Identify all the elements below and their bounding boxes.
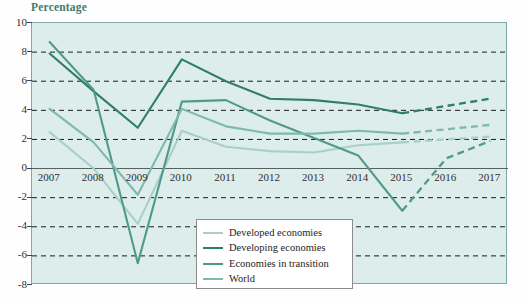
y-tick-label: 0 <box>1 162 27 173</box>
legend-item: Developing economies <box>203 241 346 257</box>
y-tick-label: 2 <box>1 133 27 144</box>
y-tick-label: -8 <box>1 279 27 290</box>
y-tick-label: -6 <box>1 249 27 260</box>
chart-legend: Developed economies Developing economies… <box>196 219 353 289</box>
y-tick-label: 4 <box>1 104 27 115</box>
legend-label: Economies in transition <box>229 259 329 270</box>
y-tick-label: -2 <box>1 191 27 202</box>
y-tick-mark <box>27 284 32 285</box>
legend-item: Economies in transition <box>203 256 346 272</box>
x-tick-label: 2013 <box>291 172 335 183</box>
x-tick-label: 2016 <box>423 172 467 183</box>
y-tick-label: -4 <box>1 220 27 231</box>
y-tick-mark <box>27 80 32 81</box>
x-tick-label: 2009 <box>115 172 159 183</box>
legend-swatch-developing <box>203 247 223 249</box>
x-tick-label: 2012 <box>247 172 291 183</box>
x-tick-label: 2008 <box>71 172 115 183</box>
legend-item: Developed economies <box>203 225 346 241</box>
y-tick-mark <box>27 22 32 23</box>
legend-swatch-transition <box>203 263 223 265</box>
y-tick-mark <box>27 226 32 227</box>
legend-item: World <box>203 272 346 288</box>
legend-swatch-world <box>203 278 223 280</box>
y-tick-mark <box>27 51 32 52</box>
legend-label: Developed economies <box>229 228 322 239</box>
y-tick-mark <box>27 255 32 256</box>
y-tick-mark <box>27 138 32 139</box>
x-tick-label: 2010 <box>159 172 203 183</box>
x-tick-label: 2007 <box>27 172 71 183</box>
y-tick-mark <box>27 168 32 169</box>
x-tick-label: 2017 <box>467 172 511 183</box>
x-tick-label: 2014 <box>335 172 379 183</box>
legend-label: World <box>229 274 255 285</box>
axis-caption: Percentage <box>31 1 87 13</box>
y-tick-label: 10 <box>1 17 27 28</box>
y-tick-mark <box>27 197 32 198</box>
chart-figure: Percentage 1086420-2-4-6-8 2007200820092… <box>0 0 524 303</box>
legend-label: Developing economies <box>229 243 326 254</box>
y-tick-label: 8 <box>1 46 27 57</box>
x-tick-label: 2011 <box>203 172 247 183</box>
x-tick-label: 2015 <box>379 172 423 183</box>
y-tick-mark <box>27 109 32 110</box>
y-tick-label: 6 <box>1 75 27 86</box>
legend-swatch-developed <box>203 232 223 234</box>
